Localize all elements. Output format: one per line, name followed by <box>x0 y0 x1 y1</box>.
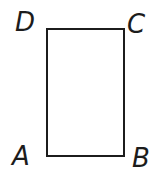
vertex-label-a: A <box>12 143 30 169</box>
rectangle-shape <box>46 28 125 157</box>
vertex-label-b: B <box>132 145 150 171</box>
geometry-figure: D C A B <box>0 0 162 179</box>
vertex-label-d: D <box>15 9 35 35</box>
vertex-label-c: C <box>127 11 145 37</box>
